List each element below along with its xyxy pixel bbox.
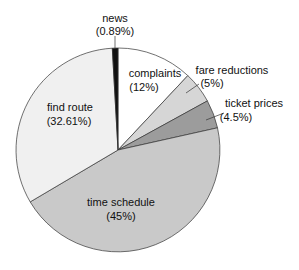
- value-time-schedule: (45%): [106, 210, 135, 222]
- label-news: news: [102, 12, 128, 24]
- pie-chart: news (0.89%) complaints (12%) fare reduc…: [0, 0, 299, 270]
- value-find-route: (32.61%): [47, 115, 92, 127]
- label-time-schedule: time schedule: [87, 196, 155, 208]
- value-fare-reductions: (5%): [200, 77, 223, 89]
- label-find-route: find route: [47, 101, 93, 113]
- label-fare-reductions: fare reductions: [196, 64, 269, 76]
- value-ticket-prices: (4.5%): [220, 111, 252, 123]
- value-complaints: (12%): [129, 81, 158, 93]
- label-ticket-prices: ticket prices: [225, 97, 284, 109]
- label-complaints: complaints: [129, 67, 182, 79]
- value-news: (0.89%): [96, 25, 135, 37]
